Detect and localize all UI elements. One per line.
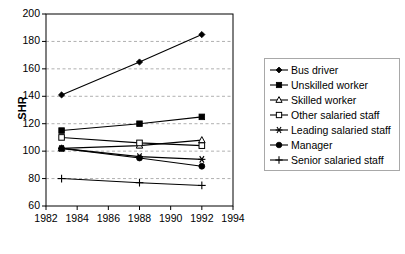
y-axis-tick-label: 120 <box>22 117 40 129</box>
legend-item-leading-salaried-staff[interactable]: Leading salaried staff <box>268 122 395 137</box>
data-point-marker <box>137 140 143 146</box>
y-axis-tick-label: 140 <box>22 89 40 101</box>
data-point-marker <box>137 155 143 161</box>
x-axis-tick-label: 1994 <box>211 212 255 224</box>
legend-marker-icon <box>268 153 290 167</box>
legend-item-unskilled-worker[interactable]: Unskilled worker <box>268 77 395 92</box>
legend-item-senior-salaried-staff[interactable]: Senior salaried staff <box>268 152 395 167</box>
legend-marker-icon <box>268 108 290 122</box>
y-axis-tick-label: 80 <box>28 172 40 184</box>
legend-item-other-salaried-staff[interactable]: Other salaried staff <box>268 107 395 122</box>
series-line <box>62 148 202 159</box>
data-point-marker <box>136 59 142 65</box>
y-axis-tick-label: 180 <box>22 34 40 46</box>
data-point-marker <box>199 114 205 120</box>
legend-item-skilled-worker[interactable]: Skilled worker <box>268 92 395 107</box>
data-point-marker <box>59 145 65 151</box>
y-axis-title: SHR <box>16 78 28 138</box>
data-point-marker <box>199 143 205 149</box>
y-axis-tick-label: 100 <box>22 144 40 156</box>
series-senior-salaried-staff <box>58 175 206 190</box>
legend-marker-icon <box>268 63 290 77</box>
data-point-marker <box>276 142 282 148</box>
legend-item-manager[interactable]: Manager <box>268 137 395 152</box>
data-point-marker <box>199 137 206 143</box>
data-point-marker <box>199 163 205 169</box>
legend-label: Senior salaried staff <box>290 153 384 167</box>
data-point-marker <box>276 112 281 117</box>
data-point-marker <box>137 121 143 127</box>
data-point-marker <box>58 92 64 98</box>
y-axis-tick-label: 160 <box>22 62 40 74</box>
y-axis-tick-label: 60 <box>28 199 40 211</box>
legend-marker-icon <box>268 78 290 92</box>
data-point-marker <box>199 31 205 37</box>
data-point-marker <box>276 67 282 73</box>
plot-border <box>46 14 233 206</box>
chart-container: SHR 2001801601401201008060 1982198419861… <box>0 0 405 254</box>
legend-marker-icon <box>268 138 290 152</box>
legend-label: Bus driver <box>290 63 338 77</box>
series-line <box>62 35 202 95</box>
chart-legend: Bus driverUnskilled workerSkilled worker… <box>264 58 400 171</box>
series-manager <box>59 145 205 169</box>
legend-marker-icon <box>268 93 290 107</box>
legend-label: Unskilled worker <box>290 78 368 92</box>
legend-item-bus-driver[interactable]: Bus driver <box>268 62 395 77</box>
legend-label: Manager <box>290 138 332 152</box>
series-line <box>62 179 202 186</box>
legend-label: Other salaried staff <box>290 108 380 122</box>
y-axis-tick-label: 200 <box>22 7 40 19</box>
data-point-marker <box>59 128 65 134</box>
legend-label: Leading salaried staff <box>290 123 391 137</box>
data-point-marker <box>59 135 65 141</box>
legend-label: Skilled worker <box>290 93 356 107</box>
legend-marker-icon <box>268 123 290 137</box>
data-point-marker <box>276 82 281 87</box>
